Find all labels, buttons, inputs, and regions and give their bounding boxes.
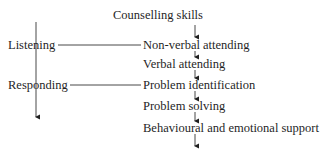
step-problem-identification: Problem identification xyxy=(143,78,255,92)
step-problem-solving: Problem solving xyxy=(143,99,225,113)
side-stage-listening: Listening xyxy=(8,38,55,52)
counselling-skills-diagram: Counselling skills Listening Responding … xyxy=(0,0,322,153)
diagram-title: Counselling skills xyxy=(113,8,203,22)
step-non-verbal-attending: Non-verbal attending xyxy=(143,38,250,52)
step-behavioural-emotional-support: Behavioural and emotional support xyxy=(143,121,319,135)
side-stage-responding: Responding xyxy=(8,78,68,92)
step-verbal-attending: Verbal attending xyxy=(143,57,225,71)
